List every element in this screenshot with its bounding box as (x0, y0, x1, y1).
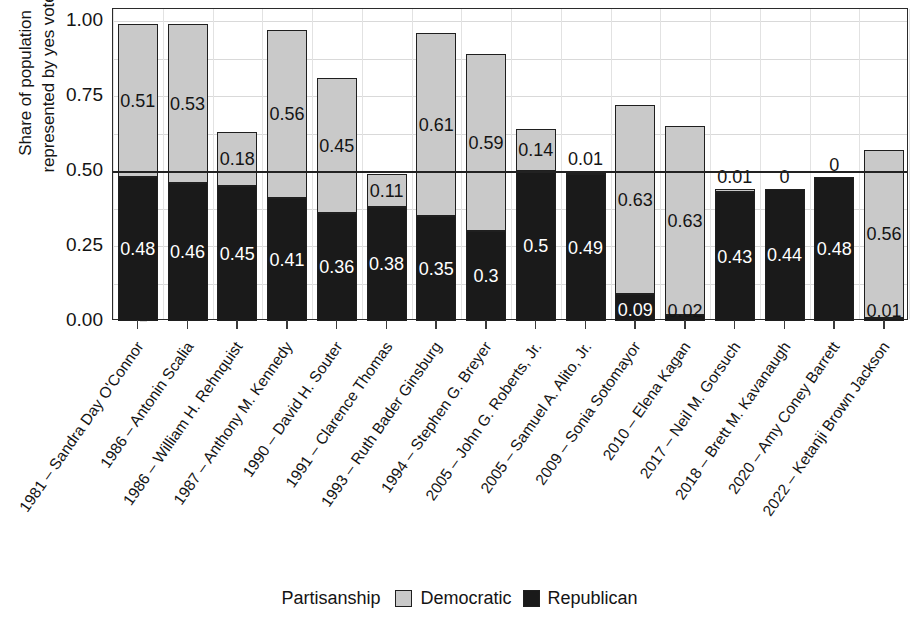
x-axis-tick-label: 1986 – Antonin Scalia (97, 334, 199, 471)
x-axis-tick-mark (137, 320, 139, 329)
grid-line-vertical (909, 9, 910, 319)
grid-line-vertical (113, 9, 114, 319)
bar-value-label-republican: 0.49 (568, 239, 603, 257)
bar-value-label-democratic: 0.56 (867, 225, 902, 243)
grid-line-vertical (412, 9, 413, 319)
legend-label-democratic: Democratic (420, 588, 511, 609)
grid-line-vertical (760, 9, 761, 319)
x-axis-tick-mark (784, 320, 786, 329)
bar-group[interactable]: 0.430.01 (715, 9, 755, 321)
y-axis-tick-label: 0.00 (41, 309, 103, 331)
x-axis-tick-mark (634, 320, 636, 329)
bar-value-label-democratic: 0.63 (618, 191, 653, 209)
grid-line-vertical (561, 9, 562, 319)
bar-group[interactable]: 0.350.61 (416, 9, 456, 321)
y-axis-title-line1: Share of population (16, 10, 35, 156)
grid-line-vertical (163, 9, 164, 319)
y-axis-ticks: 0.000.250.500.751.00 (35, 0, 103, 340)
x-axis-tick-mark (435, 320, 437, 329)
bar-value-label-democratic: 0.45 (319, 137, 354, 155)
bar-value-label-republican: 0.38 (369, 255, 404, 273)
x-axis-tick-mark (485, 320, 487, 329)
bar-value-label-democratic: 0.59 (469, 134, 504, 152)
bar-group[interactable]: 0.450.18 (217, 9, 257, 321)
x-axis-tick-mark (336, 320, 338, 329)
x-axis-tick-mark (684, 320, 686, 329)
bar-value-label-republican: 0.46 (170, 243, 205, 261)
bar-value-label-democratic: 0.01 (568, 150, 603, 168)
grid-line-vertical (511, 9, 512, 319)
grid-line-vertical (461, 9, 462, 319)
legend-swatch-democratic-icon (395, 590, 412, 607)
bar-group[interactable]: 0.010.56 (864, 9, 904, 321)
grid-line-vertical (611, 9, 612, 319)
bar-value-label-republican: 0.44 (767, 246, 802, 264)
bar-group[interactable]: 0.480 (814, 9, 854, 321)
bar-segment-democratic[interactable] (715, 189, 755, 192)
bar-value-label-republican: 0.48 (120, 240, 155, 258)
bar-group[interactable]: 0.480.51 (118, 9, 158, 321)
bar-value-label-democratic: 0.51 (120, 92, 155, 110)
x-axis-tick-mark (286, 320, 288, 329)
bar-value-label-republican: 0.01 (867, 302, 902, 320)
bar-value-label-republican: 0.3 (474, 267, 499, 285)
grid-line-vertical (262, 9, 263, 319)
x-axis-tick-mark (187, 320, 189, 329)
bar-value-label-republican: 0.43 (717, 248, 752, 266)
x-axis-tick-label-text: 2010 – Elena Kagan (600, 334, 697, 463)
legend-item-democratic[interactable]: Democratic (395, 588, 511, 609)
bar-value-label-republican: 0.45 (220, 245, 255, 263)
bar-value-label-democratic: 0.11 (370, 182, 404, 200)
bar-value-label-democratic: 0.63 (668, 212, 703, 230)
bar-value-label-republican: 0.5 (523, 237, 548, 255)
y-axis-tick-label: 1.00 (41, 9, 103, 31)
bar-group[interactable]: 0.360.45 (317, 9, 357, 321)
bar-group[interactable]: 0.410.56 (267, 9, 307, 321)
bar-value-label-republican: 0.35 (419, 260, 454, 278)
bar-group[interactable]: 0.50.14 (516, 9, 556, 321)
grid-line-vertical (362, 9, 363, 319)
x-axis-tick-mark (535, 320, 537, 329)
y-axis-tick-label: 0.75 (41, 84, 103, 106)
x-axis-tick-mark (734, 320, 736, 329)
x-axis-tick-mark (833, 320, 835, 329)
x-axis-tick-label-text: 1986 – Antonin Scalia (97, 334, 199, 471)
bar-group[interactable]: 0.020.63 (665, 9, 705, 321)
grid-line-vertical (213, 9, 214, 319)
bar-value-label-democratic: 0.14 (518, 141, 553, 159)
bar-value-label-democratic: 0.53 (170, 95, 205, 113)
bar-value-label-republican: 0.09 (618, 301, 653, 319)
bar-group[interactable]: 0.090.63 (615, 9, 655, 321)
plot-panel: 0.480.510.460.530.450.180.410.560.360.45… (112, 8, 908, 320)
bar-group[interactable]: 0.460.53 (168, 9, 208, 321)
legend-swatch-republican-icon (523, 590, 540, 607)
reference-line-half (113, 171, 907, 173)
grid-line-vertical (859, 9, 860, 319)
grid-line-vertical (710, 9, 711, 319)
legend-item-republican[interactable]: Republican (523, 588, 638, 609)
bar-value-label-democratic: 0.56 (270, 105, 305, 123)
grid-line-vertical (810, 9, 811, 319)
plot-area: 0.480.510.460.530.450.180.410.560.360.45… (113, 9, 907, 319)
legend-title: Partisanship (281, 588, 380, 609)
x-axis-tick-mark (386, 320, 388, 329)
x-axis-tick-mark (883, 320, 885, 329)
bar-value-label-democratic: 0.18 (220, 150, 255, 168)
bar-group[interactable]: 0.490.01 (566, 9, 606, 321)
legend-label-republican: Republican (548, 588, 638, 609)
x-axis-tick-label: 2010 – Elena Kagan (600, 334, 697, 463)
stacked-bar-chart-figure: Share of populationrepresented by yes vo… (0, 0, 919, 623)
bar-value-label-democratic: 0.61 (419, 116, 454, 134)
bar-value-label-republican: 0.41 (270, 251, 305, 269)
y-axis-tick-label: 0.25 (41, 234, 103, 256)
bar-group[interactable]: 0.440 (765, 9, 805, 321)
bar-group[interactable]: 0.380.11 (367, 9, 407, 321)
x-axis-tick-mark (585, 320, 587, 329)
grid-line-vertical (660, 9, 661, 319)
legend: Partisanship Democratic Republican (0, 588, 919, 609)
y-axis-tick-label: 0.50 (41, 159, 103, 181)
bar-value-label-republican: 0.36 (319, 258, 354, 276)
bar-group[interactable]: 0.30.59 (466, 9, 506, 321)
bar-value-label-republican: 0.02 (668, 302, 703, 320)
x-axis-tick-mark (236, 320, 238, 329)
